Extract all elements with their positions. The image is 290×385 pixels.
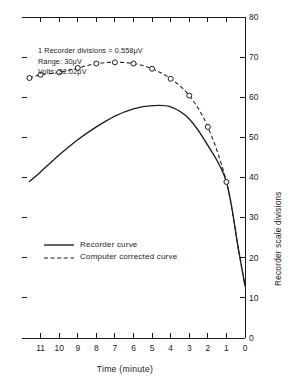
annotation-line-2: Range: 30μV	[38, 57, 143, 68]
y-tick-label: 60	[249, 93, 269, 102]
data-point-marker	[187, 93, 192, 98]
chart-legend: Recorder curve Computer corrected curve	[44, 239, 177, 264]
x-tick-label: 1	[218, 344, 234, 353]
y-tick-label: 10	[249, 294, 269, 303]
x-tick-label: 11	[33, 344, 49, 353]
y-tick-label: 70	[249, 53, 269, 62]
data-point-marker	[150, 66, 155, 71]
legend-label-recorder-curve: Recorder curve	[80, 239, 138, 251]
x-tick-label: 2	[200, 344, 216, 353]
y-axis-title: Recorder scale divisions	[262, 128, 276, 288]
annotation-block: 1 Recorder divisions = 0.558μV Range: 30…	[38, 46, 143, 78]
x-tick-label: 5	[144, 344, 160, 353]
left-axis-tick-stubs	[22, 57, 27, 298]
chart-figure: 1 Recorder divisions = 0.558μV Range: 30…	[0, 0, 290, 385]
legend-item-computer-corrected-curve: Computer corrected curve	[44, 251, 177, 263]
annotation-line-3: Volts: 32.02μV	[38, 67, 143, 78]
y-tick-label: 80	[249, 13, 269, 22]
x-tick-label: 10	[51, 344, 67, 353]
x-tick-label: 3	[181, 344, 197, 353]
data-point-marker	[224, 179, 229, 184]
data-point-marker	[168, 76, 173, 81]
y-axis-title-text: Recorder scale divisions	[273, 191, 283, 286]
legend-item-recorder-curve: Recorder curve	[44, 239, 177, 251]
x-axis-title: Time (minute)	[0, 364, 250, 374]
series-markers	[27, 60, 229, 185]
data-point-marker	[27, 75, 32, 80]
legend-swatch-dashed-line-icon	[44, 254, 74, 262]
x-tick-label: 0	[237, 344, 253, 353]
y-axis-ticks	[240, 17, 245, 338]
x-tick-label: 7	[107, 344, 123, 353]
y-tick-label: 0	[249, 334, 269, 343]
x-tick-label: 9	[70, 344, 86, 353]
annotation-line-1: 1 Recorder divisions = 0.558μV	[38, 46, 143, 57]
x-tick-label: 8	[88, 344, 104, 353]
x-tick-label: 6	[126, 344, 142, 353]
legend-swatch-solid-line-icon	[44, 241, 74, 249]
data-point-marker	[205, 124, 210, 129]
legend-label-computer-corrected-curve: Computer corrected curve	[80, 251, 177, 263]
x-tick-label: 4	[163, 344, 179, 353]
